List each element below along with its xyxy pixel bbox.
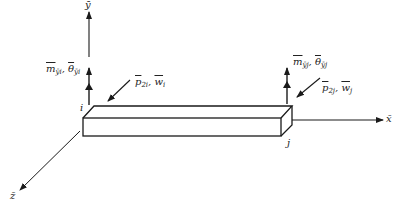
beam-top-face <box>83 106 292 118</box>
moment-j-arrow <box>283 68 291 104</box>
beam <box>83 106 292 136</box>
moment-i-label: mȳi, θȳi <box>46 64 80 76</box>
load-j-arrow <box>297 78 320 97</box>
node-j-label: j <box>287 138 290 148</box>
moment-i-arrow <box>85 68 93 105</box>
beam-element-diagram <box>0 0 407 206</box>
y-axis-label: ȳ <box>85 0 91 10</box>
z-axis-label: z̄ <box>10 191 15 201</box>
load-j-label: p2j, wj <box>322 83 352 95</box>
z-axis <box>20 131 80 190</box>
node-i-label: i <box>80 103 83 113</box>
load-i-arrow <box>108 80 130 101</box>
beam-front-face <box>83 118 281 136</box>
beam-end-face <box>281 106 292 136</box>
load-i-label: p2i, wi <box>135 77 165 89</box>
moment-j-label: mȳj, θȳj <box>293 57 327 69</box>
x-axis-label: x̄ <box>386 114 392 124</box>
